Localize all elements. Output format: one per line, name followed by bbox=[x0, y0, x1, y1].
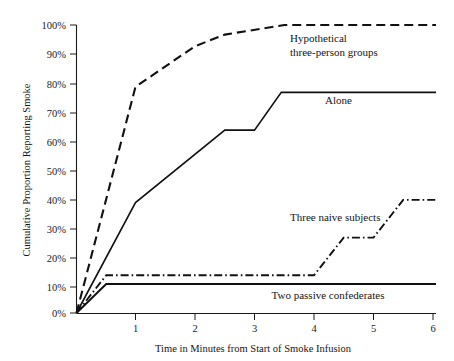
x-axis-ticks bbox=[136, 314, 434, 321]
y-tick-label-40: 40% bbox=[47, 195, 67, 206]
y-tick-label-20: 20% bbox=[47, 253, 67, 264]
y-tick-label-30: 30% bbox=[47, 224, 67, 235]
x-tick-label-6: 6 bbox=[430, 323, 435, 334]
x-axis: 1 2 3 4 5 6 bbox=[77, 314, 437, 335]
chart-canvas: 100% 90% 80% 70% 60% 50% 40% 30% 20% 10%… bbox=[0, 0, 454, 361]
y-tick-label-0: 0% bbox=[52, 308, 66, 319]
y-axis-title: Cumulative Proportion Reporting Smoke bbox=[21, 83, 32, 256]
y-tick-label-50: 50% bbox=[47, 166, 67, 177]
series-label-alone: Alone bbox=[325, 94, 352, 106]
smoke-reporting-line-chart: 100% 90% 80% 70% 60% 50% 40% 30% 20% 10%… bbox=[0, 0, 454, 361]
y-tick-label-70: 70% bbox=[47, 108, 67, 119]
y-tick-label-100: 100% bbox=[42, 20, 67, 31]
series-label-hypothetical-line1: Hypothetical bbox=[290, 32, 347, 44]
x-tick-label-2: 2 bbox=[192, 323, 197, 334]
series-label-three-naive-subjects: Three naive subjects bbox=[290, 211, 380, 223]
series-line-alone bbox=[77, 92, 437, 313]
y-axis: 100% 90% 80% 70% 60% 50% 40% 30% 20% 10%… bbox=[42, 20, 77, 319]
y-tick-label-10: 10% bbox=[47, 282, 67, 293]
x-tick-label-1: 1 bbox=[133, 323, 138, 334]
x-axis-title: Time in Minutes from Start of Smoke Infu… bbox=[155, 343, 352, 354]
y-axis-ticks bbox=[70, 25, 77, 313]
y-tick-label-80: 80% bbox=[47, 79, 67, 90]
y-tick-label-60: 60% bbox=[47, 137, 67, 148]
x-tick-label-4: 4 bbox=[311, 323, 317, 334]
x-tick-label-3: 3 bbox=[252, 323, 257, 334]
series-line-hypothetical-three-person-groups bbox=[77, 25, 437, 313]
x-tick-label-5: 5 bbox=[371, 323, 376, 334]
series-label-hypothetical-line2: three-person groups bbox=[290, 46, 378, 58]
series-label-two-passive-confederates: Two passive confederates bbox=[272, 289, 385, 301]
y-tick-label-90: 90% bbox=[47, 49, 67, 60]
